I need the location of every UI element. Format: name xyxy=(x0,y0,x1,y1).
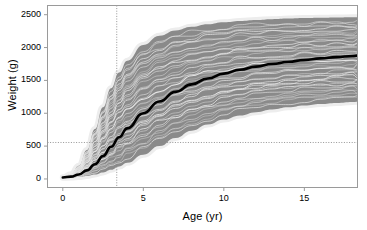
y-tick-label: 2000 xyxy=(11,42,41,52)
x-tick-label: 0 xyxy=(48,193,78,203)
y-tick-label: 1500 xyxy=(11,74,41,84)
y-tick-label: 0 xyxy=(11,173,41,183)
x-tick-label: 5 xyxy=(128,193,158,203)
x-tick-label: 15 xyxy=(289,193,319,203)
x-axis-title: Age (yr) xyxy=(47,210,358,222)
growth-curve-figure: Weight (g) Age (yr) 05001000150020002500… xyxy=(0,0,367,230)
y-tick-label: 2500 xyxy=(11,9,41,19)
y-tick-label: 1000 xyxy=(11,107,41,117)
y-tick-label: 500 xyxy=(11,140,41,150)
x-tick-label: 10 xyxy=(209,193,239,203)
